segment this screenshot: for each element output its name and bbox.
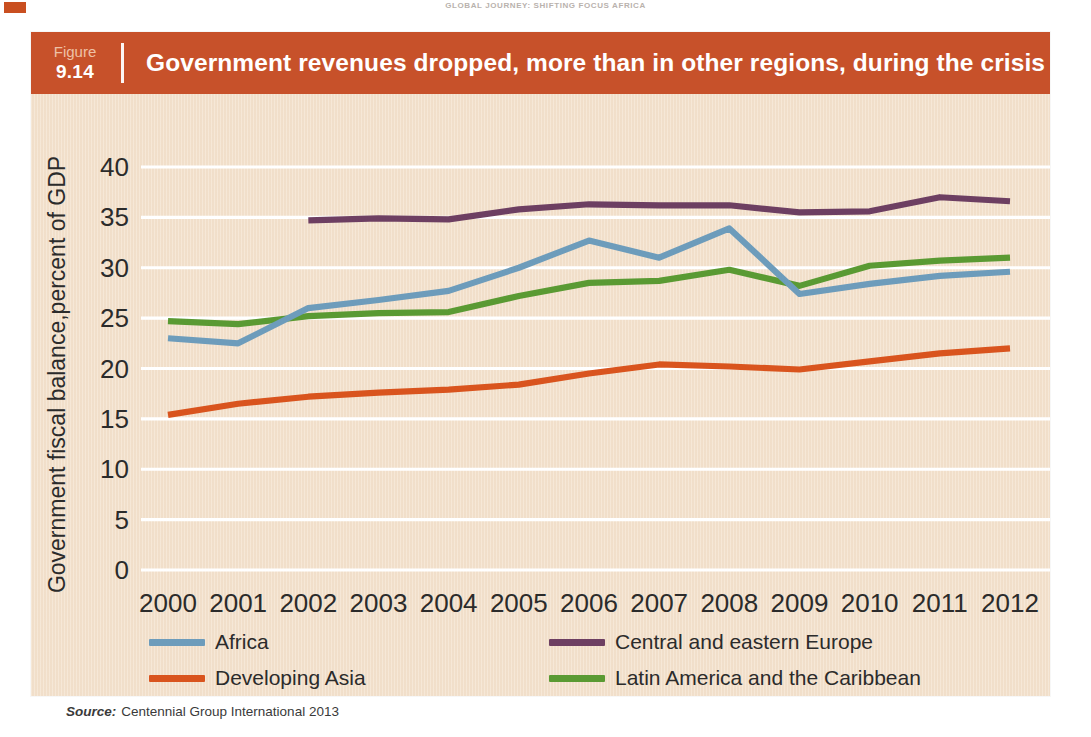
legend-row-2: Developing Asia Latin America and the Ca… (149, 660, 1009, 696)
legend-swatch-latin-america-and-the-caribbean (549, 675, 605, 682)
x-axis-tick-label: 2002 (279, 588, 337, 618)
legend-swatch-africa (149, 639, 205, 646)
x-axis-tick-label: 2001 (209, 588, 267, 618)
y-axis-tick-label: 15 (100, 404, 129, 434)
figure-title: Government revenues dropped, more than i… (146, 49, 1045, 77)
x-axis-tick-label: 2009 (771, 588, 829, 618)
line-chart: Government fiscal balance,percent of GDP… (31, 94, 1050, 696)
legend-row-1: Africa Central and eastern Europe (149, 624, 1009, 660)
x-axis-tick-label: 2010 (841, 588, 899, 618)
page-running-head: GLOBAL JOURNEY: SHIFTING FOCUS AFRICA (0, 0, 1091, 12)
source-text: Centennial Group International 2013 (121, 704, 339, 719)
source-label: Source: (66, 704, 116, 719)
figure-number-block: Figure 9.14 (31, 44, 119, 82)
x-axis-tick-label: 2012 (981, 588, 1039, 618)
y-axis-tick-label: 25 (100, 303, 129, 333)
figure-header: Figure 9.14 Government revenues dropped,… (31, 32, 1050, 94)
legend-item-central-and-eastern-europe[interactable]: Central and eastern Europe (549, 630, 873, 654)
x-axis-tick-label: 2011 (912, 588, 968, 618)
legend-label-central-and-eastern-europe: Central and eastern Europe (615, 630, 873, 654)
source-line: Source:Centennial Group International 20… (66, 704, 339, 719)
y-axis-tick-label: 35 (100, 202, 129, 232)
legend-item-africa[interactable]: Africa (149, 630, 549, 654)
legend-label-latin-america-and-the-caribbean: Latin America and the Caribbean (615, 666, 921, 690)
y-axis-tick-label: 20 (100, 354, 129, 384)
x-axis-tick-label: 2007 (630, 588, 688, 618)
x-axis-tick-label: 2003 (350, 588, 408, 618)
legend-swatch-central-and-eastern-europe (549, 639, 605, 646)
x-axis-tick-label: 2006 (560, 588, 618, 618)
figure-panel: Figure 9.14 Government revenues dropped,… (31, 32, 1050, 696)
y-axis-tick-label: 5 (115, 505, 129, 535)
x-axis-tick-label: 2000 (139, 588, 197, 618)
x-axis-tick-label: 2008 (700, 588, 758, 618)
chart-legend: Africa Central and eastern Europe Develo… (149, 624, 1009, 696)
y-axis-tick-label: 30 (100, 253, 129, 283)
x-axis-tick-label: 2004 (420, 588, 478, 618)
legend-item-developing-asia[interactable]: Developing Asia (149, 666, 549, 690)
series-line-developing-asia (168, 348, 1010, 414)
figure-header-divider (121, 43, 124, 83)
figure-number-label: Figure (54, 44, 97, 61)
legend-label-africa: Africa (215, 630, 269, 654)
legend-swatch-developing-asia (149, 675, 205, 682)
y-axis-tick-label: 40 (100, 152, 129, 182)
y-axis-tick-label: 0 (115, 555, 129, 585)
x-axis-tick-label: 2005 (490, 588, 548, 618)
y-axis-title: Government fiscal balance,percent of GDP (44, 156, 70, 593)
plot-area: Government fiscal balance,percent of GDP… (31, 94, 1050, 696)
legend-item-latin-america-and-the-caribbean[interactable]: Latin America and the Caribbean (549, 666, 921, 690)
figure-number-value: 9.14 (56, 61, 94, 82)
legend-label-developing-asia: Developing Asia (215, 666, 366, 690)
y-axis-tick-label: 10 (100, 454, 129, 484)
